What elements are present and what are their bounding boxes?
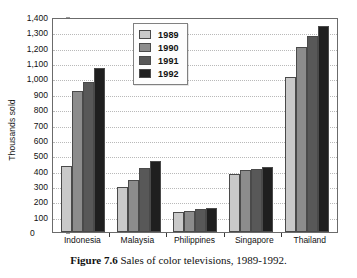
bar — [72, 91, 83, 232]
chart-legend: 1989199019911992 — [133, 23, 188, 85]
legend-swatch — [139, 69, 151, 78]
y-axis-tick-label: 700 — [34, 121, 48, 130]
y-axis-tick-label: 1,100 — [27, 60, 48, 69]
bar — [206, 208, 217, 232]
bar-groups — [53, 19, 337, 232]
x-axis-tick-mark — [166, 233, 167, 237]
y-axis-tick-label: 900 — [34, 91, 48, 100]
y-axis-tick-label: 800 — [34, 106, 48, 115]
bar — [117, 187, 128, 232]
y-axis-tick-label: 1,300 — [27, 29, 48, 38]
bar — [61, 166, 72, 232]
y-axis-tick-label: 100 — [34, 213, 48, 222]
legend-label: 1989 — [158, 30, 179, 40]
bar-group — [61, 19, 105, 232]
bar — [296, 47, 307, 232]
y-axis-tick-labels: 1,4001,3001,2001,1001,000900800700600500… — [18, 18, 48, 233]
legend-label: 1992 — [158, 69, 179, 79]
figure-container: Thousands sold 1,4001,3001,2001,1001,000… — [0, 0, 357, 278]
x-axis-tick-mark — [224, 233, 225, 237]
figure-number: Figure 7.6 — [70, 254, 117, 266]
figure-caption: Figure 7.6 Sales of color televisions, 1… — [0, 254, 357, 266]
legend-swatch — [139, 56, 151, 65]
legend-item: 1991 — [139, 54, 179, 67]
y-axis-tick-label: 1,200 — [27, 44, 48, 53]
y-axis-tick-label: 400 — [34, 167, 48, 176]
legend-swatch — [139, 43, 151, 52]
bar — [150, 161, 161, 232]
x-axis-category-label: Singapore — [235, 235, 274, 245]
x-axis-category-label: Malaysia — [121, 235, 155, 245]
x-axis-category-label: Indonesia — [64, 235, 101, 245]
bar — [251, 169, 262, 232]
y-axis-tick-label: 300 — [34, 183, 48, 192]
legend-item: 1989 — [139, 28, 179, 41]
bar — [262, 167, 273, 232]
bar — [195, 209, 206, 232]
y-axis-tick-label: 500 — [34, 152, 48, 161]
y-axis-tick-label: 600 — [34, 137, 48, 146]
bar — [285, 77, 296, 232]
bar — [240, 170, 251, 232]
x-axis-category-label: Thailand — [293, 235, 326, 245]
y-axis-tick-label: 200 — [34, 198, 48, 207]
bar — [184, 211, 195, 233]
legend-label: 1990 — [158, 43, 179, 53]
bar — [173, 212, 184, 232]
caption-text: Sales of color televisions, 1989-1992. — [118, 254, 287, 266]
bar — [83, 82, 94, 233]
x-axis-tick-mark — [281, 233, 282, 237]
bar-group — [285, 19, 329, 232]
legend-item: 1990 — [139, 41, 179, 54]
x-axis-category-labels: IndonesiaMalaysiaPhilippinesSingaporeTha… — [52, 235, 338, 245]
y-axis-zero-label: 0 — [30, 228, 35, 238]
bar — [139, 168, 150, 232]
y-axis-tick-label: 1,400 — [27, 14, 48, 23]
plot-area — [52, 18, 338, 233]
y-axis-title-text: Thousands sold — [7, 99, 17, 160]
y-axis-tick-label: 1,000 — [27, 75, 48, 84]
bar — [307, 36, 318, 232]
bar — [229, 174, 240, 232]
legend-label: 1991 — [158, 56, 179, 66]
bar-group — [229, 19, 273, 232]
legend-item: 1992 — [139, 67, 179, 80]
bar — [318, 26, 329, 232]
x-axis-tick-mark — [109, 233, 110, 237]
legend-swatch — [139, 30, 151, 39]
x-axis-category-label: Philippines — [174, 235, 215, 245]
bar — [128, 180, 139, 232]
bar — [94, 68, 105, 232]
